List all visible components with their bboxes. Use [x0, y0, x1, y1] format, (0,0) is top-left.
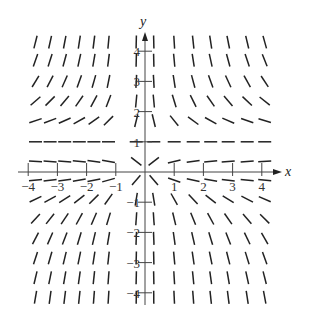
slope-segment	[227, 36, 230, 49]
slope-segment	[92, 232, 95, 245]
slope-segment	[89, 117, 100, 125]
slope-segment	[204, 161, 217, 162]
slope-segment	[174, 271, 175, 284]
y-axis-label: y	[138, 14, 147, 29]
slope-segment	[192, 54, 194, 67]
slope-segment	[74, 195, 84, 203]
slope-segment	[64, 291, 66, 304]
slope-segment	[243, 214, 251, 224]
y-tick-label: −3	[126, 256, 140, 271]
slope-segment	[227, 271, 229, 284]
slope-segment	[244, 76, 250, 87]
slope-segment	[61, 96, 69, 106]
slope-segment	[187, 161, 200, 163]
slope-segment	[227, 252, 230, 265]
slope-segment	[49, 271, 52, 284]
slope-segment	[173, 75, 175, 88]
slope-segment	[210, 36, 212, 49]
slope-segment	[263, 36, 267, 49]
slope-segment	[227, 291, 229, 304]
slope-segment	[206, 195, 216, 203]
slope-segment	[227, 54, 230, 67]
slope-segment	[104, 116, 113, 125]
slope-segment	[241, 161, 254, 162]
y-tick-label: −2	[126, 225, 140, 240]
slope-segment	[48, 252, 52, 264]
slope-segment	[88, 161, 101, 163]
x-tick-label: 2	[200, 179, 207, 194]
slope-segment	[49, 291, 51, 304]
slope-segment	[106, 95, 111, 107]
slope-segment	[150, 175, 158, 185]
slope-segment	[77, 232, 81, 245]
y-tick-label: −1	[126, 195, 140, 210]
slope-segment	[153, 95, 154, 108]
slope-segment	[173, 213, 176, 226]
slope-segment	[132, 175, 140, 185]
slope-segment	[78, 36, 80, 49]
x-tick-label: −3	[50, 179, 64, 194]
y-axis-arrow-icon	[142, 32, 148, 41]
slope-segment	[31, 97, 41, 106]
slope-segment	[107, 213, 111, 225]
slope-segment	[174, 36, 175, 49]
x-axis-arrow-icon	[273, 169, 282, 175]
slope-segment	[208, 213, 214, 224]
slope-segment	[245, 54, 249, 66]
slope-segment	[59, 196, 70, 203]
slope-segment	[152, 114, 155, 127]
slope-segment	[259, 119, 271, 123]
slope-segment	[245, 252, 249, 264]
slope-segment	[108, 54, 110, 67]
slope-segment	[46, 214, 54, 224]
slope-segment	[29, 161, 42, 162]
slope-segment	[241, 196, 253, 202]
slope-segment	[59, 118, 71, 123]
x-tick-label: 3	[229, 179, 236, 194]
slope-segment	[44, 196, 55, 202]
slope-segment	[153, 75, 154, 88]
slope-segment	[74, 118, 85, 124]
slope-segment	[79, 291, 80, 304]
slope-segment	[93, 252, 95, 265]
x-tick-label: 1	[171, 179, 178, 194]
slope-segment	[262, 54, 267, 66]
slope-segment	[49, 36, 52, 49]
slope-segment	[225, 214, 232, 225]
x-axis-label: x	[284, 164, 292, 179]
slope-segment	[192, 252, 194, 265]
slope-segments	[29, 36, 271, 304]
slope-segment	[170, 116, 178, 126]
slope-segment	[154, 232, 155, 245]
slope-segment	[210, 291, 211, 304]
slope-segment	[226, 232, 231, 244]
slope-segment	[191, 213, 196, 225]
slope-segment	[226, 76, 231, 88]
slope-segment	[91, 213, 96, 225]
slope-segment	[33, 233, 39, 245]
x-tick-label: −2	[80, 179, 94, 194]
slope-segment	[174, 54, 175, 67]
slope-segment	[93, 54, 95, 67]
slope-segment	[209, 54, 212, 67]
x-tick-label: −4	[21, 179, 35, 194]
slope-segment	[261, 76, 268, 87]
y-tick-label: 2	[134, 105, 141, 120]
slope-segment	[262, 233, 268, 244]
slope-segment	[33, 54, 37, 66]
slope-segment	[246, 36, 249, 49]
slope-segment	[131, 157, 141, 165]
slope-segment	[246, 271, 249, 284]
slope-segment	[108, 271, 109, 284]
slope-segment	[63, 252, 66, 265]
slope-segment	[263, 252, 267, 264]
slope-segment	[209, 75, 213, 87]
slope-segment	[205, 118, 216, 124]
slope-segment	[153, 212, 154, 225]
slope-segment	[63, 54, 66, 67]
slope-segment	[44, 161, 57, 162]
slope-segment	[172, 95, 176, 107]
slope-segment	[34, 36, 37, 49]
slope-segment	[92, 75, 96, 88]
slope-segment	[62, 76, 67, 88]
